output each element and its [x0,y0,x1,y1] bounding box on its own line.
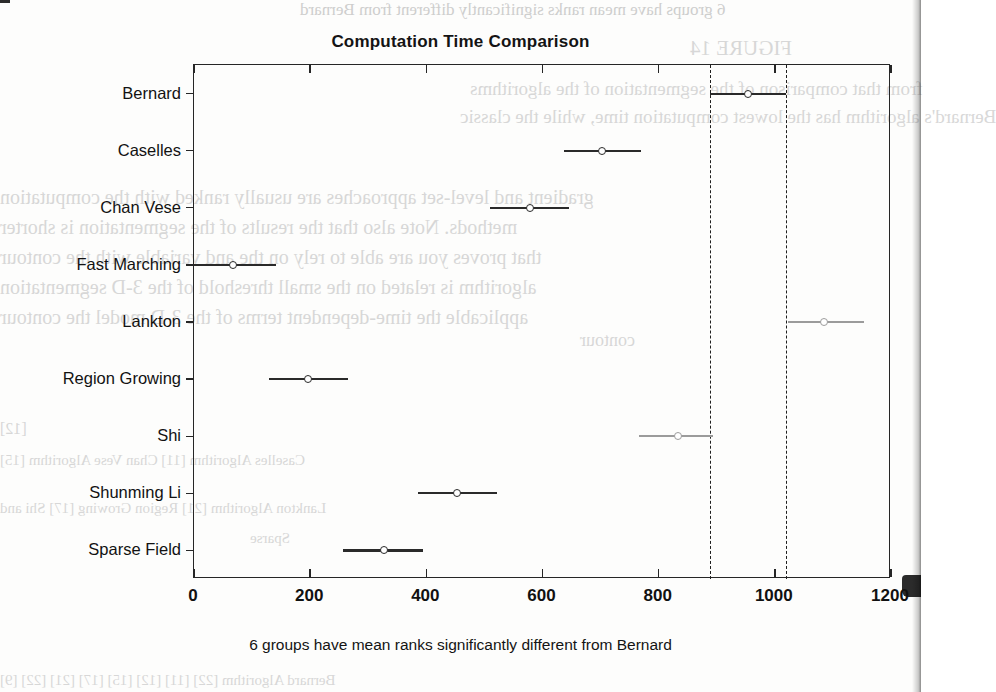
y-axis-tick [186,550,194,551]
y-axis-tick [186,493,194,494]
y-axis-label-shi: Shi [157,426,181,445]
x-axis-tick-label: 800 [643,586,671,606]
x-axis-tick-top [774,65,775,73]
y-axis-tick [186,207,194,208]
y-axis-label-bernard: Bernard [122,83,181,102]
x-axis-tick [774,569,775,577]
mean-rank-marker[interactable] [526,204,534,212]
mean-rank-marker[interactable] [229,261,237,269]
y-axis-tick [186,378,194,379]
x-axis-tick [426,569,427,577]
x-axis-tick [309,569,310,577]
plot-area [193,64,890,578]
mean-rank-marker[interactable] [674,432,682,440]
x-axis-tick [658,569,659,577]
x-axis-tick-label: 200 [295,586,323,606]
x-axis-tick-top [658,65,659,73]
mean-rank-marker[interactable] [304,375,312,383]
reference-line [710,65,711,579]
y-axis-label-fast-marching: Fast Marching [76,254,181,273]
y-axis-label-chan-vese: Chan Vese [100,197,181,216]
x-axis-tick-top [542,65,543,73]
mean-rank-marker[interactable] [820,318,828,326]
y-axis-label-lankton: Lankton [122,312,181,331]
plot-inner [194,65,889,577]
chart-title: Computation Time Comparison [0,32,921,52]
mean-rank-marker[interactable] [744,90,752,98]
y-axis-tick [186,150,194,151]
x-axis-tick [890,569,891,577]
y-axis-label-caselles: Caselles [118,140,181,159]
y-axis-tick [186,321,194,322]
x-axis-tick-label: 0 [188,586,197,606]
y-axis-label-shunming-li: Shunming Li [89,483,181,502]
x-axis-tick [193,569,194,577]
x-axis-tick-top [193,65,194,73]
x-axis-tick-top [890,65,891,73]
y-axis-tick [186,264,194,265]
x-axis-tick-label: 400 [411,586,439,606]
x-axis-tick-top [426,65,427,73]
x-axis-tick-top [309,65,310,73]
x-axis-tick-label: 1200 [871,586,909,606]
x-axis-tick-label: 600 [527,586,555,606]
x-axis-tick-label: 1000 [755,586,793,606]
mean-rank-marker[interactable] [598,147,606,155]
x-axis-tick [542,569,543,577]
mean-rank-marker[interactable] [453,489,461,497]
y-axis-tick [186,93,194,94]
y-axis-label-sparse-field: Sparse Field [88,540,181,559]
mean-rank-marker[interactable] [380,546,388,554]
x-axis-caption: 6 groups have mean ranks significantly d… [0,636,921,654]
y-axis-label-region-growing: Region Growing [63,369,181,388]
y-axis-tick [186,436,194,437]
